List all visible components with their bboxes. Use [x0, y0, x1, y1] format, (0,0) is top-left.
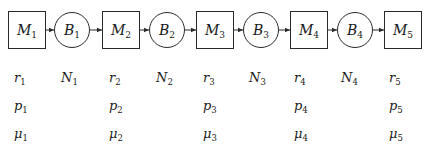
- parameter-row-r: r1 N1 r2 N2 r3 N3 r4 N4 r5: [14, 70, 401, 87]
- param-p2: p2: [109, 98, 123, 115]
- buffer-node-b1: B1: [55, 13, 90, 48]
- param-mu3: μ3: [203, 126, 217, 143]
- production-line-diagram: M1 B1 M2 B2 M3 B3 M4 B4: [0, 0, 432, 150]
- param-n4: N4: [340, 70, 358, 87]
- param-mu5: μ5: [389, 126, 403, 143]
- parameter-row-p: p1 p2 p3 p4 p5: [14, 98, 403, 115]
- nodes: M1 B1 M2 B2 M3 B3 M4 B4: [9, 12, 422, 49]
- parameter-row-mu: μ1 μ2 μ3 μ4 μ5: [14, 126, 403, 143]
- param-p4: p4: [294, 98, 308, 115]
- param-mu1: μ1: [14, 126, 28, 143]
- param-n1: N1: [60, 70, 78, 87]
- machine-node-m1: M1: [9, 12, 46, 49]
- machine-node-m3: M3: [197, 12, 234, 49]
- param-r3: r3: [203, 70, 215, 87]
- param-n3: N3: [248, 70, 266, 87]
- buffer-node-b2: B2: [150, 13, 185, 48]
- param-r5: r5: [389, 70, 401, 87]
- param-n2: N2: [155, 70, 173, 87]
- param-mu2: μ2: [109, 126, 123, 143]
- buffer-node-b4: B4: [338, 13, 373, 48]
- machine-node-m4: M4: [291, 12, 328, 49]
- param-p3: p3: [203, 98, 217, 115]
- param-r4: r4: [294, 70, 306, 87]
- machine-node-m5: M5: [385, 12, 422, 49]
- param-p5: p5: [389, 98, 403, 115]
- param-r2: r2: [109, 70, 121, 87]
- param-mu4: μ4: [294, 126, 308, 143]
- buffer-node-b3: B3: [244, 13, 279, 48]
- param-p1: p1: [14, 98, 28, 115]
- machine-node-m2: M2: [103, 12, 140, 49]
- param-r1: r1: [14, 70, 26, 87]
